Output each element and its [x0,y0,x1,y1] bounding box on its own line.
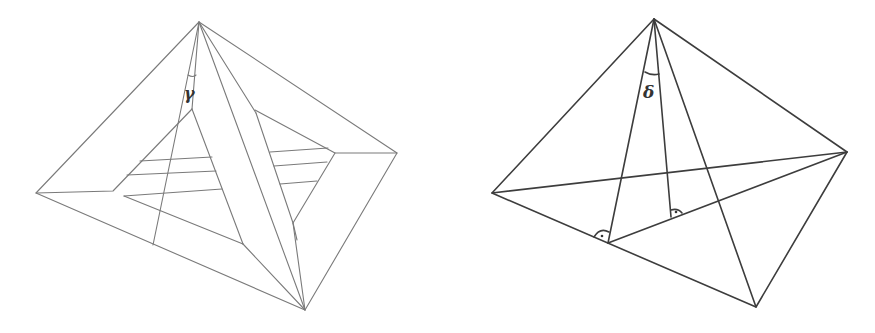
left-figure: γ [36,22,397,310]
left-outer-outline [36,22,397,310]
delta-angle-arc [645,72,659,75]
left-strip-left-edge [192,109,243,244]
left-hatch-3 [124,189,222,196]
right-hatch-1 [270,148,328,152]
left-inner-bottom-to-vertex [243,244,305,310]
left-apex-line-4 [199,22,305,310]
right-angle-dot-2 [675,211,678,214]
right-height-1 [608,19,654,243]
right-hatch-3 [280,181,317,184]
left-strip-right-edge [256,113,293,223]
left-inner-right-face [255,110,397,153]
right-angle-dot-1 [601,235,604,238]
left-inner-left-face [36,109,192,193]
right-figure: δ [492,19,847,307]
left-inner-right-lower [293,153,335,240]
right-hatch-2 [274,162,327,166]
left-hatch-2 [127,171,216,175]
left-strip-right-lower [293,223,305,310]
delta-label: δ [642,82,654,102]
right-apex-to-bottom [654,19,756,307]
left-hatch-1 [140,157,212,161]
left-gamma-line-1 [153,22,199,245]
diagram-canvas: γ δ [0,0,875,333]
left-inner-bottom-edge [124,196,243,244]
gamma-label: γ [184,84,196,103]
right-height-2 [654,19,671,217]
